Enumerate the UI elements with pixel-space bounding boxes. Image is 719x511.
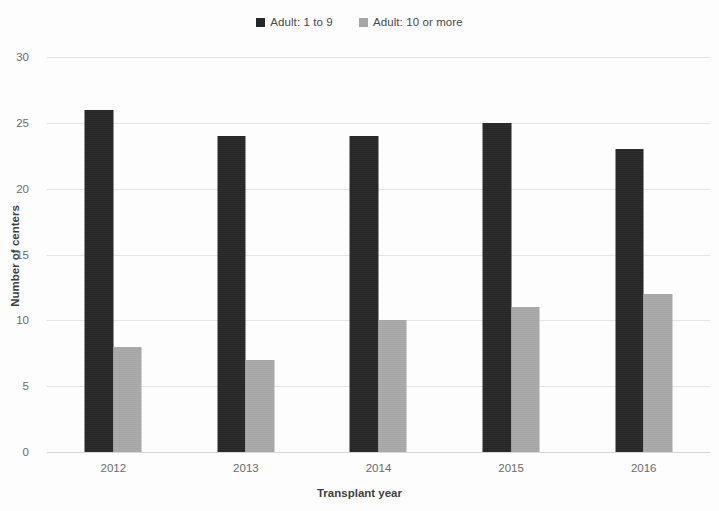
x-axis-tick-label: 2015 bbox=[451, 462, 571, 474]
bar[interactable] bbox=[615, 149, 644, 452]
bar[interactable] bbox=[511, 307, 540, 452]
legend-item-label: Adult: 10 or more bbox=[373, 16, 463, 28]
y-axis-tick-label: 30 bbox=[0, 51, 29, 63]
legend-swatch-icon bbox=[256, 18, 265, 27]
y-axis-tick-label: 10 bbox=[0, 314, 29, 326]
bar-groups bbox=[47, 57, 710, 452]
chart-legend: Adult: 1 to 9Adult: 10 or more bbox=[0, 16, 719, 28]
bar-group bbox=[312, 57, 445, 452]
x-axis-tick-label: 2013 bbox=[186, 462, 306, 474]
y-axis-tick-label: 0 bbox=[0, 446, 29, 458]
bar-group bbox=[47, 57, 180, 452]
bar[interactable] bbox=[113, 347, 142, 452]
bar[interactable] bbox=[483, 123, 512, 452]
legend-item-1[interactable]: Adult: 10 or more bbox=[359, 16, 463, 28]
plot-area: 051015202530 bbox=[47, 57, 710, 452]
bar[interactable] bbox=[378, 320, 407, 452]
y-axis-tick-label: 15 bbox=[0, 249, 29, 261]
x-axis-tick-label: 2014 bbox=[319, 462, 439, 474]
bar[interactable] bbox=[85, 110, 114, 452]
bar-chart: Adult: 1 to 9Adult: 10 or more Number of… bbox=[0, 0, 719, 511]
legend-item-0[interactable]: Adult: 1 to 9 bbox=[256, 16, 333, 28]
bar[interactable] bbox=[217, 136, 246, 452]
bar[interactable] bbox=[246, 360, 275, 452]
x-axis-tick-label: 2016 bbox=[584, 462, 704, 474]
y-axis-tick-label: 5 bbox=[0, 380, 29, 392]
bar-group bbox=[180, 57, 313, 452]
gridline bbox=[47, 452, 710, 453]
y-axis-tick-label: 25 bbox=[0, 117, 29, 129]
y-axis-tick-label: 20 bbox=[0, 183, 29, 195]
x-axis-tick-label: 2012 bbox=[53, 462, 173, 474]
legend-item-label: Adult: 1 to 9 bbox=[270, 16, 333, 28]
legend-swatch-icon bbox=[359, 18, 368, 27]
bar[interactable] bbox=[644, 294, 673, 452]
bar-group bbox=[577, 57, 710, 452]
x-axis-title: Transplant year bbox=[0, 487, 719, 499]
bar-group bbox=[445, 57, 578, 452]
bar[interactable] bbox=[350, 136, 379, 452]
